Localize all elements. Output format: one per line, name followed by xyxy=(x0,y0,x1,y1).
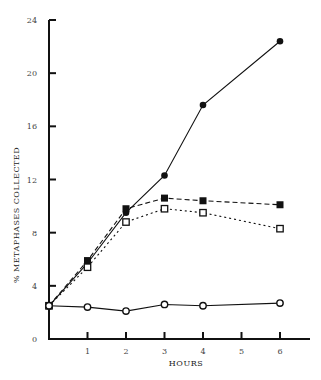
open-square-marker xyxy=(161,206,167,212)
x-tick-label: 4 xyxy=(200,347,205,356)
filled-square-marker xyxy=(84,257,91,264)
open-circle-marker xyxy=(123,308,129,314)
open-square-marker xyxy=(277,225,283,231)
y-tick-label: 20 xyxy=(27,69,37,78)
y-tick-label: 4 xyxy=(32,282,37,291)
filled-circle-marker xyxy=(277,38,284,45)
y-tick-label: 24 xyxy=(27,16,37,25)
open-circle-marker xyxy=(277,300,283,306)
y-ticks: 04812162024 xyxy=(27,16,56,344)
open-circle-marker xyxy=(84,304,90,310)
y-tick-label: 0 xyxy=(32,335,37,344)
filled-square-marker xyxy=(200,197,207,204)
open-circle-marker xyxy=(161,301,167,307)
x-tick-label: 1 xyxy=(85,347,90,356)
x-axis-label: HOURS xyxy=(169,359,203,368)
open-circle-marker xyxy=(46,303,52,309)
x-tick-label: 5 xyxy=(239,347,244,356)
x-tick-label: 3 xyxy=(162,347,167,356)
data-series xyxy=(46,38,284,314)
line-chart: 04812162024 123456 % METAPHASES COLLECTE… xyxy=(0,0,321,380)
x-ticks: 123456 xyxy=(85,332,283,356)
axes xyxy=(48,20,310,340)
filled-square-marker xyxy=(123,205,130,212)
y-tick-label: 12 xyxy=(27,176,37,185)
y-tick-label: 16 xyxy=(27,122,37,131)
open-circle-marker xyxy=(200,303,206,309)
open-square-marker xyxy=(123,219,129,225)
filled-square-marker xyxy=(277,201,284,208)
filled-square-marker xyxy=(161,195,168,202)
x-tick-label: 2 xyxy=(123,347,128,356)
filled-circle-marker xyxy=(161,172,168,179)
filled-circle-marker xyxy=(200,102,207,109)
y-axis-label: % METAPHASES COLLECTED xyxy=(12,147,21,283)
open-square-marker xyxy=(200,210,206,216)
series-open-circle-solid xyxy=(46,300,283,314)
open-square-marker xyxy=(84,264,90,270)
series-open-square-dotted xyxy=(46,206,283,309)
x-tick-label: 6 xyxy=(277,347,282,356)
y-tick-label: 8 xyxy=(32,229,37,238)
